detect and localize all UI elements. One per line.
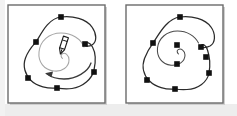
anchor-bottom[interactable]: [54, 85, 60, 91]
two-panel-figure: [0, 0, 237, 116]
anchor-upper-left[interactable]: [33, 39, 39, 45]
bottom-strip: [0, 104, 237, 116]
anchor-upper-right[interactable]: [82, 41, 88, 47]
anchor-mid-right[interactable]: [203, 54, 209, 60]
anchor-top[interactable]: [177, 14, 183, 20]
anchor-lower-left[interactable]: [144, 77, 150, 83]
figure-canvas: [0, 0, 237, 116]
anchor-upper-left[interactable]: [150, 40, 156, 46]
anchor-lower-left[interactable]: [25, 75, 31, 81]
anchor-upper-right[interactable]: [198, 44, 204, 50]
panel-right[interactable]: [126, 5, 225, 105]
anchor-bottom[interactable]: [172, 86, 178, 92]
left-strip: [0, 0, 5, 116]
anchor-right[interactable]: [206, 70, 212, 76]
anchor-right[interactable]: [91, 69, 97, 75]
panel-left[interactable]: [8, 5, 107, 105]
anchor-inner-upper[interactable]: [174, 42, 180, 48]
anchor-inner-lower[interactable]: [174, 61, 180, 67]
anchor-top[interactable]: [58, 14, 64, 20]
